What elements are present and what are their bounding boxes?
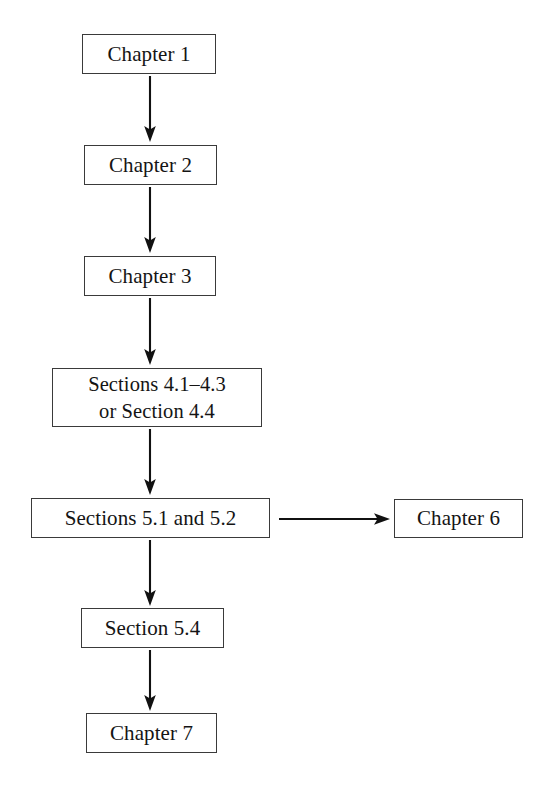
- arrow-sections5-to-chapter6: [276, 509, 394, 529]
- arrow-head-down: [144, 479, 156, 495]
- node-chapter-2[interactable]: Chapter 2: [84, 145, 217, 185]
- arrow-section54-to-chapter7: [140, 648, 160, 713]
- arrow-head-down: [144, 237, 156, 253]
- arrow-head-down: [144, 695, 156, 711]
- arrow-chapter1-to-chapter2: [140, 74, 160, 144]
- node-chapter-1[interactable]: Chapter 1: [82, 34, 216, 74]
- arrow-sections5-to-section54: [140, 538, 160, 608]
- arrow-sections4-to-sections5: [140, 427, 160, 497]
- arrow-chapter2-to-chapter3: [140, 185, 160, 255]
- arrow-chapter3-to-sections4: [140, 296, 160, 367]
- arrow-head-down: [144, 349, 156, 365]
- node-chapter-7[interactable]: Chapter 7: [86, 713, 217, 753]
- arrow-head-right: [374, 513, 390, 525]
- arrow-head-down: [144, 126, 156, 142]
- flowchart-canvas: Chapter 1 Chapter 2 Chapter 3 Sections 4…: [0, 0, 545, 789]
- node-chapter-3[interactable]: Chapter 3: [84, 256, 216, 296]
- node-sections-4[interactable]: Sections 4.1–4.3 or Section 4.4: [52, 368, 262, 427]
- arrow-head-down: [144, 590, 156, 606]
- node-section-5-4[interactable]: Section 5.4: [81, 608, 224, 648]
- node-chapter-6[interactable]: Chapter 6: [394, 499, 523, 538]
- node-sections-5-1-and-5-2[interactable]: Sections 5.1 and 5.2: [31, 498, 270, 538]
